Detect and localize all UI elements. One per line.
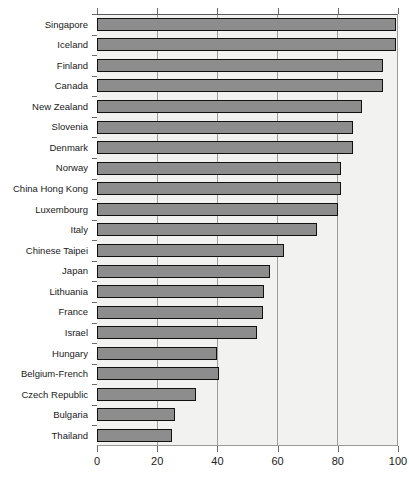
category-label-text: Chinese Taipei xyxy=(26,246,88,256)
category-label-text: Bulgaria xyxy=(53,410,88,420)
category-label-text: Denmark xyxy=(49,143,88,153)
category-label-text: New Zealand xyxy=(32,102,88,112)
category-label: Japan xyxy=(0,261,92,282)
bar xyxy=(97,223,317,236)
category-label: Czech Republic xyxy=(0,384,92,405)
category-label: Slovenia xyxy=(0,117,92,138)
bar-row xyxy=(97,35,398,56)
category-label-text: China Hong Kong xyxy=(13,184,88,194)
category-label-text: France xyxy=(58,307,88,317)
category-label: New Zealand xyxy=(0,96,92,117)
bar-row xyxy=(97,76,398,97)
category-label-text: Belgium-French xyxy=(21,369,88,379)
bar-row xyxy=(97,179,398,200)
bar-row xyxy=(97,384,398,405)
category-label: France xyxy=(0,302,92,323)
category-label-text: Italy xyxy=(71,225,88,235)
value-tick-label: 20 xyxy=(151,455,163,467)
bar xyxy=(97,182,341,195)
value-tick-top xyxy=(157,8,158,14)
bar-chart: SingaporeIcelandFinlandCanadaNew Zealand… xyxy=(0,0,409,478)
value-tick-label: 100 xyxy=(389,455,407,467)
value-tick-label: 60 xyxy=(271,455,283,467)
category-label-text: Thailand xyxy=(52,431,88,441)
bar-row xyxy=(97,14,398,35)
value-tick-top xyxy=(398,8,399,14)
category-label: Luxembourg xyxy=(0,199,92,220)
category-label: Israel xyxy=(0,322,92,343)
bar-row xyxy=(97,322,398,343)
value-tick xyxy=(157,446,158,452)
bar xyxy=(97,38,396,51)
category-label: Lithuania xyxy=(0,281,92,302)
category-label-text: Finland xyxy=(57,61,88,71)
value-tick-label: 0 xyxy=(94,455,100,467)
bar-row xyxy=(97,302,398,323)
bar xyxy=(97,244,284,257)
category-axis-labels: SingaporeIcelandFinlandCanadaNew Zealand… xyxy=(0,14,92,446)
value-tick-label: 80 xyxy=(332,455,344,467)
category-label-text: Luxembourg xyxy=(35,205,88,215)
category-label-text: Czech Republic xyxy=(21,390,88,400)
bar-row xyxy=(97,220,398,241)
bar-row xyxy=(97,240,398,261)
bar xyxy=(97,306,263,319)
bar-row xyxy=(97,261,398,282)
bar xyxy=(97,388,196,401)
bar-row xyxy=(97,96,398,117)
category-label: Thailand xyxy=(0,425,92,446)
value-tick xyxy=(97,446,98,452)
bar xyxy=(97,141,353,154)
category-label: China Hong Kong xyxy=(0,179,92,200)
category-label: Iceland xyxy=(0,35,92,56)
bar-row xyxy=(97,137,398,158)
category-label-text: Lithuania xyxy=(49,287,88,297)
bar xyxy=(97,79,383,92)
category-label: Denmark xyxy=(0,137,92,158)
bar-row xyxy=(97,364,398,385)
bar xyxy=(97,18,396,31)
category-label: Bulgaria xyxy=(0,405,92,426)
value-tick xyxy=(278,446,279,452)
value-tick xyxy=(338,446,339,452)
category-label-text: Iceland xyxy=(57,40,88,50)
bar xyxy=(97,59,383,72)
category-label: Hungary xyxy=(0,343,92,364)
bar-row xyxy=(97,281,398,302)
value-tick-top xyxy=(217,8,218,14)
bar xyxy=(97,367,219,380)
bar xyxy=(97,162,341,175)
category-label-text: Japan xyxy=(62,266,88,276)
category-label-text: Slovenia xyxy=(52,122,88,132)
category-label: Italy xyxy=(0,220,92,241)
category-label: Belgium-French xyxy=(0,364,92,385)
bar-row xyxy=(97,55,398,76)
bar-row xyxy=(97,158,398,179)
bar xyxy=(97,203,338,216)
bar-row xyxy=(97,425,398,446)
bar xyxy=(97,408,175,421)
category-label-text: Singapore xyxy=(45,20,88,30)
value-tick xyxy=(217,446,218,452)
value-tick-top xyxy=(278,8,279,14)
category-label: Norway xyxy=(0,158,92,179)
value-tick-top xyxy=(97,8,98,14)
category-label: Canada xyxy=(0,76,92,97)
category-label-text: Hungary xyxy=(52,349,88,359)
value-tick-top xyxy=(338,8,339,14)
bar xyxy=(97,429,172,442)
category-label-text: Canada xyxy=(55,81,88,91)
bar xyxy=(97,121,353,134)
bar xyxy=(97,285,264,298)
category-label-text: Israel xyxy=(65,328,88,338)
category-label-text: Norway xyxy=(56,163,88,173)
bar-row xyxy=(97,343,398,364)
value-tick-label: 40 xyxy=(211,455,223,467)
category-label: Finland xyxy=(0,55,92,76)
bar-row xyxy=(97,117,398,138)
bar xyxy=(97,100,362,113)
category-label: Singapore xyxy=(0,14,92,35)
category-label: Chinese Taipei xyxy=(0,240,92,261)
bar xyxy=(97,326,257,339)
bar-row xyxy=(97,405,398,426)
